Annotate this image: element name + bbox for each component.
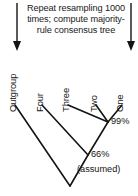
- tip-label-two: Two: [88, 95, 99, 112]
- right-down-arrow: [127, 3, 135, 51]
- tip-label-one: One: [114, 95, 125, 112]
- support-99-label: 99%: [111, 116, 129, 126]
- tip-label-outgroup: Outgroup: [7, 74, 18, 112]
- support-66-label: 66%: [91, 149, 109, 159]
- branch-four: [42, 105, 88, 155]
- consensus-tree-figure: Repeat resampling 1000 times; compute ma…: [0, 0, 138, 196]
- tip-label-three: Three: [60, 88, 71, 112]
- root-assumed-label: (assumed): [77, 164, 120, 174]
- left-down-arrow: [13, 3, 21, 51]
- branch-outgroup: [15, 105, 70, 186]
- tip-label-four: Four: [34, 93, 45, 112]
